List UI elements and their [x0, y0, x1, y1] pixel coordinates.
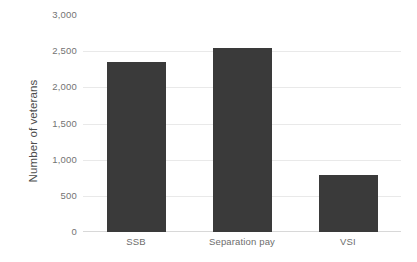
y-axis-tick-labels: 05001,0001,5002,0002,5003,000: [27, 15, 77, 232]
y-axis-tick-label: 2,000: [31, 82, 77, 92]
y-axis-tick-label: 1,000: [31, 155, 77, 165]
bar: [107, 62, 166, 232]
x-axis-tick-label: Separation pay: [189, 236, 295, 248]
y-axis-tick-label: 3,000: [31, 10, 77, 20]
y-axis-tick-label: 1,500: [31, 119, 77, 129]
bar: [319, 175, 378, 232]
y-axis-tick-label: 0: [31, 227, 77, 237]
plot-area: [83, 15, 401, 232]
x-axis-tick-label: VSI: [295, 236, 401, 248]
x-axis-tick-labels: SSBSeparation payVSI: [83, 236, 401, 252]
x-axis-tick-label: SSB: [83, 236, 189, 248]
bar: [213, 48, 272, 232]
y-axis-tick-label: 2,500: [31, 46, 77, 56]
y-axis-tick-label: 500: [31, 191, 77, 201]
bar-chart: Number of veterans 05001,0001,5002,0002,…: [0, 0, 417, 262]
